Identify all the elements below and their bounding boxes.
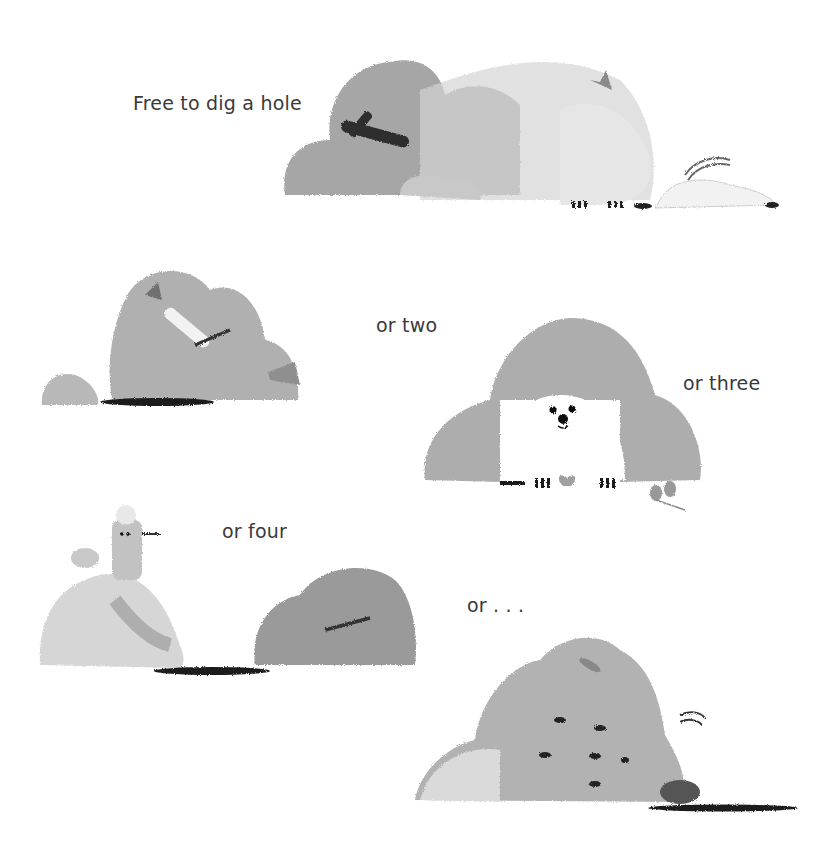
- scene-4-bird-and-mounds: [40, 505, 416, 675]
- scene-1-dig-mound: [284, 60, 779, 209]
- scene-3-fluffy-under-arch: [424, 318, 700, 510]
- illustration-canvas: [0, 0, 831, 852]
- scene-2-two-mounds: [42, 271, 300, 406]
- scene-5-big-dig: [415, 638, 798, 812]
